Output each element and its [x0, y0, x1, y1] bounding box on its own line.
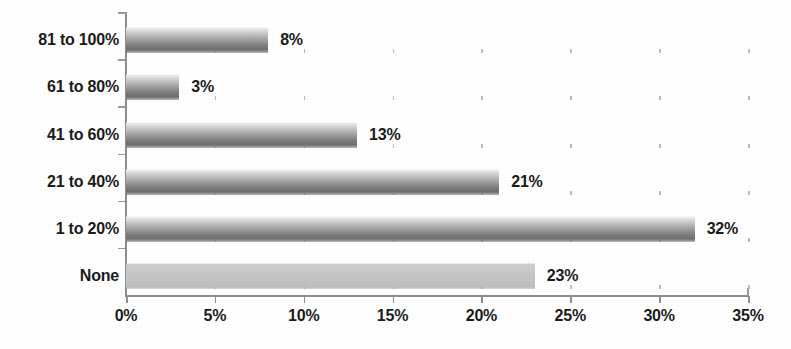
y-axis-category-label: 81 to 100% [0, 31, 119, 49]
gridline-tick [659, 285, 661, 289]
gridline-tick [570, 96, 572, 100]
gridline-tick [481, 96, 483, 100]
y-axis-category-label: 1 to 20% [0, 220, 119, 238]
bar [126, 28, 268, 53]
x-axis-tick [304, 296, 306, 303]
x-axis-tick [659, 296, 661, 303]
gridline-tick [748, 144, 750, 148]
gridline-tick [748, 238, 750, 242]
x-axis-tick-label: 25% [555, 307, 586, 325]
bar-value-label: 13% [369, 126, 400, 144]
y-axis-tick [118, 201, 125, 203]
x-axis-tick [481, 296, 483, 303]
gridline-tick [570, 144, 572, 148]
gridline-tick [481, 144, 483, 148]
bar-value-label: 3% [191, 78, 214, 96]
y-axis-category-label: 61 to 80% [0, 78, 119, 96]
y-axis-line [125, 12, 127, 296]
gridline-tick [304, 49, 306, 53]
x-axis-tick-label: 15% [377, 307, 408, 325]
y-axis-tick [118, 248, 125, 250]
y-axis-tick [118, 154, 125, 156]
y-axis-tick [118, 59, 125, 61]
bar-value-label: 21% [511, 173, 542, 191]
x-axis-tick-label: 30% [643, 307, 674, 325]
gridline-tick [393, 49, 395, 53]
bar [126, 264, 535, 289]
gridline-tick [481, 49, 483, 53]
gridline-tick [570, 285, 572, 289]
gridline-tick [748, 285, 750, 289]
x-axis-tick [393, 296, 395, 303]
bar-chart: 81 to 100%61 to 80%41 to 60%21 to 40%1 t… [0, 0, 791, 349]
gridline-tick [659, 49, 661, 53]
gridline-tick [748, 191, 750, 195]
gridline-tick [570, 49, 572, 53]
gridline-tick [748, 96, 750, 100]
bar-value-label: 32% [707, 220, 738, 238]
y-axis-category-label: 21 to 40% [0, 173, 119, 191]
x-axis-tick-label: 5% [203, 307, 226, 325]
gridline-tick [659, 96, 661, 100]
bar [126, 122, 357, 147]
x-axis-tick-label: 20% [466, 307, 497, 325]
gridline-tick [659, 191, 661, 195]
bar [126, 216, 695, 241]
bar-value-label: 23% [547, 267, 578, 285]
x-axis-tick [215, 296, 217, 303]
x-axis-tick-label: 0% [115, 307, 138, 325]
gridline-tick [659, 144, 661, 148]
x-axis-tick [748, 296, 750, 303]
bar [126, 75, 179, 100]
gridline-tick [393, 96, 395, 100]
gridline-tick [393, 144, 395, 148]
x-axis-line [125, 295, 749, 297]
x-axis-tick-label: 10% [288, 307, 319, 325]
x-axis-tick [570, 296, 572, 303]
gridline-tick [215, 96, 217, 100]
gridline-tick [570, 191, 572, 195]
gridline-tick [748, 49, 750, 53]
x-axis-right-cap [747, 288, 749, 296]
x-axis-tick-label: 35% [732, 307, 763, 325]
y-axis-category-label: 41 to 60% [0, 126, 119, 144]
y-axis-tick [118, 12, 125, 14]
gridline-tick [304, 96, 306, 100]
bar-value-label: 8% [280, 31, 303, 49]
bar [126, 169, 499, 194]
y-axis-category-label: None [0, 267, 119, 285]
y-axis-tick [118, 106, 125, 108]
x-axis-tick [126, 296, 128, 303]
